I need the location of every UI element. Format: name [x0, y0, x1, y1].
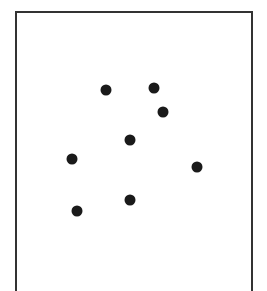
dot [158, 107, 169, 118]
dot [149, 83, 160, 94]
dot [192, 162, 203, 173]
dot [125, 135, 136, 146]
dot [125, 195, 136, 206]
box-frame [15, 11, 253, 291]
dot [72, 206, 83, 217]
dot [67, 154, 78, 165]
dot [101, 85, 112, 96]
